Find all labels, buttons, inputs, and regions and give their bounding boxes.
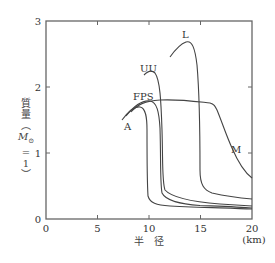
x-unit: (km)	[242, 234, 265, 245]
label-A: A	[123, 121, 132, 132]
x-axis-title: 半 径	[134, 235, 164, 247]
curve-L	[170, 42, 252, 199]
label-UU: UU	[140, 63, 157, 74]
curve-M	[131, 100, 252, 178]
y-title-char: 量	[14, 109, 38, 120]
x-tick-5: 5	[94, 223, 100, 234]
label-M: M	[231, 144, 241, 155]
curve-A	[122, 107, 252, 209]
y-title-char: 質	[14, 98, 38, 109]
y-title-symbol: M⊙	[14, 131, 38, 147]
x-tick-10: 10	[143, 223, 156, 234]
label-FPS: FPS	[133, 91, 154, 102]
y-tick-0: 0	[35, 214, 41, 225]
y-title-paren-close: ︶	[14, 169, 38, 180]
y-axis-title: 質 量 ︵ M⊙ = 1 ︶	[14, 98, 38, 180]
mass-radius-chart: 0 5 10 15 20 (km) 0 1 2 3 半 径 A FPS UU L…	[0, 0, 275, 263]
y-tick-2: 2	[35, 82, 41, 93]
y-title-equals: =	[14, 147, 38, 158]
x-tick-0: 0	[43, 223, 49, 234]
y-title-paren-open: ︵	[14, 120, 38, 131]
x-ticks	[98, 21, 201, 219]
y-tick-3: 3	[35, 16, 41, 27]
label-L: L	[182, 29, 189, 40]
y-title-one: 1	[14, 158, 38, 169]
x-tick-20: 20	[246, 223, 259, 234]
x-tick-15: 15	[194, 223, 207, 234]
